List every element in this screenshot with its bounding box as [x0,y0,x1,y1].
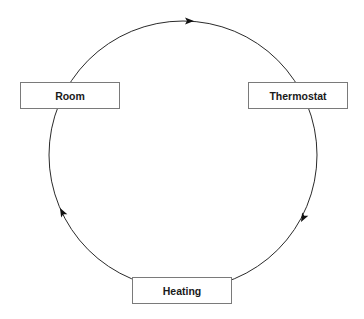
node-thermostat-label: Thermostat [269,90,326,102]
node-heating: Heating [132,277,232,304]
node-thermostat: Thermostat [248,82,348,109]
node-room: Room [20,82,120,109]
cycle-circle [49,21,317,289]
feedback-loop-diagram [0,0,364,319]
node-heating-label: Heating [163,285,202,297]
node-room-label: Room [55,90,85,102]
arrowhead-heating-to-room-icon [57,206,67,217]
